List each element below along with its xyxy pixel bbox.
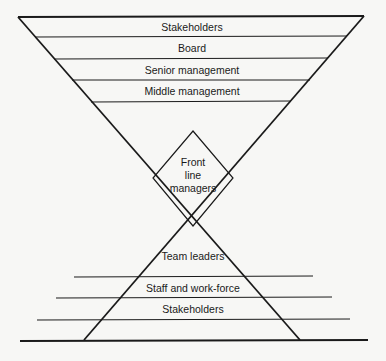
bottom-pyramid-sides xyxy=(0,0,386,361)
